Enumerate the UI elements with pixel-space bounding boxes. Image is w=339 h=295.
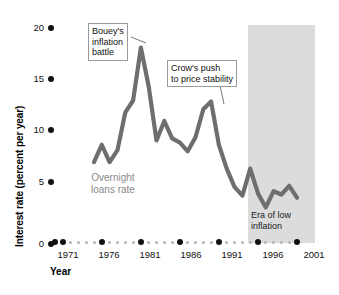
- plot-area: 20 15 10 5 0 1971 1976 1981 1986 1991 19…: [0, 0, 339, 295]
- callout-line: Bouey's: [92, 26, 124, 37]
- leader-line-bouey: [131, 37, 146, 43]
- callout-line: battle: [92, 47, 124, 58]
- callout-bouey-inflation-battle: Bouey's inflation battle: [88, 23, 128, 61]
- x-axis-title: Year: [50, 266, 71, 277]
- figure-interest-rate-chart: 20 15 10 5 0 1971 1976 1981 1986 1991 19…: [0, 0, 339, 295]
- series-label-line-2: loans rate: [91, 184, 135, 196]
- callout-line: Crow's push: [171, 63, 233, 74]
- overnight-loans-rate-line: [0, 0, 339, 295]
- band-label-line-2: inflation: [251, 221, 291, 232]
- y-axis-title: Interest rate (percent per year): [14, 106, 25, 247]
- callout-line: inflation: [92, 37, 124, 48]
- callout-line: to price stability: [171, 74, 233, 85]
- shaded-region-label: Era of low inflation: [251, 210, 291, 231]
- series-label-line-1: Overnight: [91, 172, 135, 184]
- callout-crow-push-price-stability: Crow's push to price stability: [167, 60, 237, 87]
- band-label-line-1: Era of low: [251, 210, 291, 221]
- series-label-overnight-loans-rate: Overnight loans rate: [91, 172, 135, 196]
